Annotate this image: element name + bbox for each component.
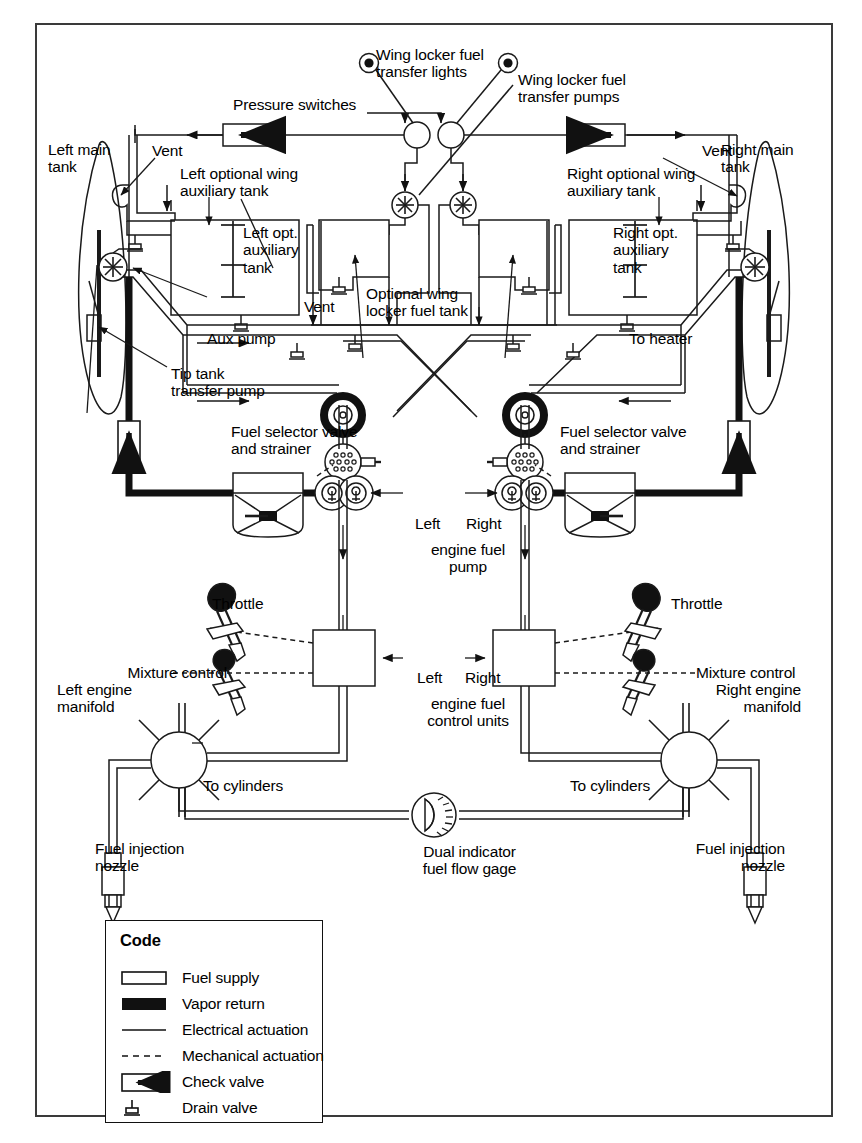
label-wing-locker-fuel-transfer-lights: Wing locker fuel transfer lights	[376, 46, 484, 81]
legend-item-vapor-return: Vapor return	[120, 993, 310, 1015]
drain-valve-left-aux	[233, 315, 249, 331]
pressure-switch-pointer-left	[367, 113, 405, 123]
pressure-switch-left	[404, 122, 430, 148]
label-pressure-switches: Pressure switches	[233, 96, 356, 113]
label-engine-fuel-pump-left-word: Left	[415, 515, 440, 532]
label-to-cylinders-left: To cylinders	[203, 777, 283, 794]
legend-label-check-valve: Check valve	[182, 1071, 264, 1093]
drain-valve-mid-left	[347, 335, 363, 351]
pressure-switch-right	[438, 122, 464, 148]
fcu-to-manifold-left	[207, 686, 347, 761]
label-left-opt-auxiliary-tank: Left opt. auxiliary tank	[243, 224, 299, 276]
drain-valve-icon	[120, 1097, 172, 1119]
label-wing-locker-fuel-transfer-pumps: Wing locker fuel transfer pumps	[518, 71, 626, 106]
electrical-actuation-icon	[120, 1019, 172, 1041]
label-left-engine-manifold: Left engine manifold	[57, 681, 132, 716]
fuel-selector-valve-right	[506, 396, 544, 449]
fuel-supply-icon	[120, 967, 172, 989]
legend-item-fuel-supply: Fuel supply	[120, 967, 310, 989]
legend-title: Code	[120, 931, 161, 950]
mechanical-actuation-icon	[120, 1045, 172, 1067]
label-fuel-selector-valve-left: Fuel selector valve and strainer	[231, 423, 357, 458]
label-vent-right: Vent	[702, 142, 732, 159]
label-right-optional-wing-auxiliary-tank: Right optional wing auxiliary tank	[567, 165, 695, 200]
label-tip-tank-transfer-pump: Tip tank transfer pump	[171, 365, 265, 400]
legend-label-vapor-return: Vapor return	[182, 993, 265, 1015]
left-engine-fuel-pump	[315, 476, 373, 510]
right-engine-fuel-control-unit	[493, 630, 555, 686]
label-optional-wing-locker-fuel-tank: Optional wing locker fuel tank	[366, 285, 468, 320]
optional-wing-locker-fuel-tank-left	[307, 220, 389, 294]
label-vent-center: Vent	[304, 298, 334, 315]
drain-valve-outer-left	[565, 343, 581, 359]
vent-horn-left	[112, 185, 175, 221]
label-engine-fuel-pump-right-word: Right	[466, 515, 501, 532]
crossfeed-x-lines	[337, 335, 531, 417]
label-engine-fuel-control-right-word: Right	[465, 669, 500, 686]
legend-item-mechanical-actuation: Mechanical actuation	[120, 1045, 320, 1067]
legend-label-electrical-actuation: Electrical actuation	[182, 1019, 308, 1041]
left-engine-fuel-control-unit	[313, 630, 375, 686]
label-throttle-right: Throttle	[671, 595, 722, 612]
label-engine-fuel-control-units: engine fuel control units	[385, 695, 551, 730]
label-left-optional-wing-auxiliary-tank: Left optional wing auxiliary tank	[180, 165, 298, 200]
label-fuel-injection-nozzle-left: Fuel injection nozzle	[95, 840, 184, 875]
label-right-engine-manifold: Right engine manifold	[601, 681, 801, 716]
label-engine-fuel-control-left-word: Left	[417, 669, 442, 686]
label-mixture-control-left: Mixture control	[57, 664, 227, 681]
leader-tip-tank-pump	[99, 327, 167, 367]
label-fuel-injection-nozzle-right: Fuel injection nozzle	[635, 840, 785, 875]
vapor-flow-arrow-box-left	[118, 421, 140, 461]
label-left-main-tank: Left main tank	[48, 141, 110, 176]
dual-indicator-fuel-flow-gage	[412, 793, 456, 837]
fuel-system-diagram-page: Left main tank Right main tank Pressure …	[0, 0, 862, 1143]
wing-locker-transfer-pump-right	[439, 192, 479, 235]
switch-left-lead	[405, 148, 417, 191]
label-right-opt-auxiliary-tank: Right opt. auxiliary tank	[613, 224, 678, 276]
fuel-selector-detail-left	[233, 473, 303, 537]
label-throttle-left: Throttle	[212, 595, 263, 612]
label-dual-indicator-fuel-flow-gage: Dual indicator fuel flow gage	[377, 843, 562, 878]
vapor-return-icon	[120, 993, 172, 1015]
wing-locker-pump-leader	[419, 85, 513, 195]
label-to-cylinders-right: To cylinders	[570, 777, 650, 794]
wingroot-line-right	[697, 221, 741, 235]
check-valve-left	[223, 124, 271, 146]
fuel-strainer-right	[487, 444, 543, 480]
legend-label-mechanical-actuation: Mechanical actuation	[182, 1045, 324, 1067]
legend-item-check-valve: Check valve	[120, 1071, 310, 1093]
optional-wing-locker-fuel-tank-right	[479, 220, 561, 294]
diagram-frame: Left main tank Right main tank Pressure …	[35, 23, 833, 1117]
legend-label-fuel-supply: Fuel supply	[182, 967, 259, 989]
wingroot-line-left	[127, 221, 171, 235]
label-to-heater: To heater	[629, 330, 692, 347]
legend-item-drain-valve: Drain valve	[120, 1097, 310, 1119]
drain-valve-right-aux	[619, 315, 635, 331]
drain-valve-mid-right	[505, 335, 521, 351]
legend-label-drain-valve: Drain valve	[182, 1097, 257, 1119]
check-valve-icon	[120, 1071, 172, 1093]
legend-item-electrical-actuation: Electrical actuation	[120, 1019, 320, 1041]
check-valve-right	[577, 124, 625, 146]
legend-code-box: Code Fuel supply Vapor return Electrical…	[105, 920, 323, 1123]
wing-locker-transfer-pump-left	[389, 192, 429, 235]
right-engine-fuel-pump	[495, 476, 553, 510]
label-engine-fuel-pump: engine fuel pump	[389, 541, 547, 576]
drain-valve-outer-right	[289, 343, 305, 359]
label-fuel-selector-valve-right: Fuel selector valve and strainer	[560, 423, 686, 458]
fuel-selector-detail-right	[565, 473, 635, 537]
vent-line-left	[137, 200, 175, 220]
mechanical-actuation-links	[169, 628, 699, 673]
label-mixture-control-right: Mixture control	[696, 664, 795, 681]
label-aux-pump: Aux pump	[207, 330, 276, 347]
vapor-flow-arrow-box-right	[728, 421, 750, 461]
leader-vent-left	[121, 158, 155, 195]
label-vent-left: Vent	[152, 142, 182, 159]
